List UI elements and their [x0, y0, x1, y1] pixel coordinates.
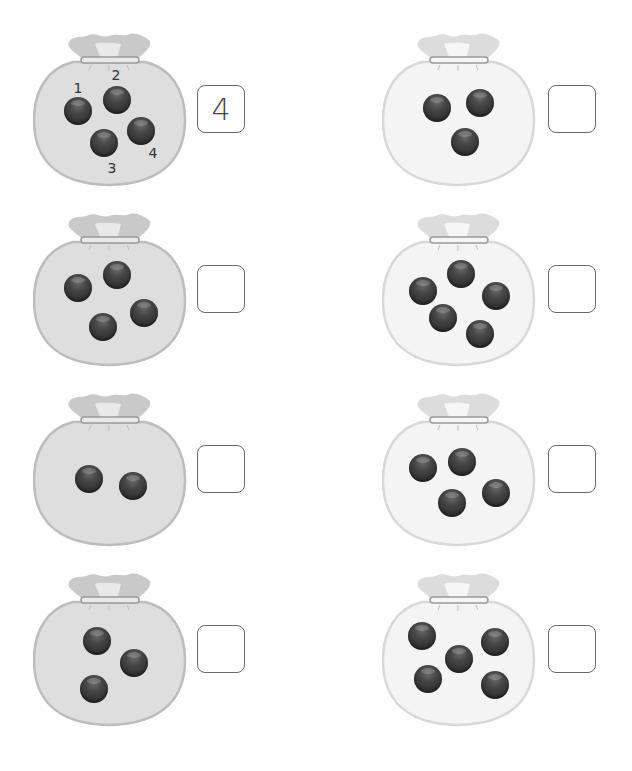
marble-icon: [80, 675, 108, 703]
marble-icon: [481, 628, 509, 656]
marble-icon: [120, 649, 148, 677]
marble-icon: [130, 299, 158, 327]
marble-icon: [423, 94, 451, 122]
marble-icon: [103, 261, 131, 289]
answer-box[interactable]: [548, 85, 596, 133]
marble-icon: [447, 260, 475, 288]
answer-box[interactable]: [548, 445, 596, 493]
marble-icon: [90, 129, 118, 157]
marble-icon: [466, 89, 494, 117]
bag-4: [382, 212, 632, 382]
bag-6: [382, 392, 632, 562]
bag-7: [33, 572, 303, 742]
marble-icon: [451, 128, 479, 156]
answer-box[interactable]: [548, 265, 596, 313]
marble-icon: [409, 277, 437, 305]
marble-bag-icon: [33, 212, 187, 370]
marble-icon: [409, 454, 437, 482]
answer-box[interactable]: [197, 625, 245, 673]
marble-icon: [466, 320, 494, 348]
bag-5: [33, 392, 303, 562]
answer-box[interactable]: [197, 445, 245, 493]
marble-icon: [481, 671, 509, 699]
bag-2: [382, 32, 632, 202]
count-label: 1: [74, 81, 83, 95]
marble-icon: [119, 472, 147, 500]
answer-box[interactable]: [197, 265, 245, 313]
answer-box[interactable]: [548, 625, 596, 673]
marble-bag-icon: [33, 572, 187, 730]
marble-icon: [83, 627, 111, 655]
bag-3: [33, 212, 303, 382]
count-label: 3: [108, 161, 117, 175]
marble-icon: [482, 479, 510, 507]
count-label: 2: [112, 68, 121, 82]
marble-icon: [482, 282, 510, 310]
marble-bag-icon: [382, 212, 536, 370]
marble-icon: [89, 313, 117, 341]
marble-icon: [414, 665, 442, 693]
marble-icon: [408, 622, 436, 650]
marble-icon: [64, 274, 92, 302]
marble-icon: [448, 448, 476, 476]
marble-icon: [438, 489, 466, 517]
marble-icon: [103, 86, 131, 114]
marble-icon: [75, 465, 103, 493]
marble-icon: [429, 304, 457, 332]
marble-bag-icon: [382, 32, 536, 190]
marble-icon: [64, 97, 92, 125]
marble-icon: [445, 645, 473, 673]
bag-8: [382, 572, 632, 742]
bag-1: 12344: [33, 32, 303, 202]
marble-icon: [127, 117, 155, 145]
answer-box[interactable]: 4: [197, 85, 245, 133]
marble-bag-icon: [33, 392, 187, 550]
count-label: 4: [149, 146, 158, 160]
